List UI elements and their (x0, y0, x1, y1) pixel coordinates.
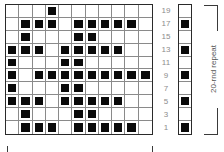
filled-cell (33, 44, 46, 57)
empty-cell (19, 69, 32, 82)
filled-cell (112, 95, 125, 108)
empty-cell (139, 5, 152, 18)
empty-cell (33, 57, 46, 70)
empty-cell (125, 57, 138, 70)
filled-cell (179, 44, 191, 57)
filled-cell (19, 108, 32, 121)
filled-cell (59, 95, 72, 108)
empty-cell (72, 5, 85, 18)
row-number-labels: 191715131197531 (157, 4, 175, 135)
row-label: 1 (157, 122, 175, 135)
stitch-repeat-bracket-left (7, 146, 8, 152)
row-label: 17 (157, 17, 175, 30)
empty-cell (179, 5, 191, 18)
filled-cell (99, 44, 112, 57)
filled-cell (86, 44, 99, 57)
empty-cell (6, 18, 19, 31)
filled-cell (179, 69, 191, 82)
empty-cell (179, 31, 191, 44)
row-label: 15 (157, 30, 175, 43)
filled-cell (46, 18, 59, 31)
filled-cell (59, 82, 72, 95)
filled-cell (72, 18, 85, 31)
repeat-bracket-lower (217, 108, 218, 134)
empty-cell (112, 82, 125, 95)
empty-cell (99, 5, 112, 18)
filled-cell (72, 57, 85, 70)
filled-cell (33, 18, 46, 31)
filled-cell (86, 69, 99, 82)
empty-cell (59, 121, 72, 134)
empty-cell (139, 31, 152, 44)
filled-cell (86, 18, 99, 31)
empty-cell (179, 57, 191, 70)
empty-cell (46, 57, 59, 70)
empty-cell (19, 57, 32, 70)
filled-cell (6, 44, 19, 57)
empty-cell (33, 5, 46, 18)
filled-cell (112, 18, 125, 31)
filled-cell (125, 121, 138, 134)
empty-cell (33, 82, 46, 95)
empty-cell (59, 18, 72, 31)
empty-cell (125, 108, 138, 121)
empty-cell (46, 82, 59, 95)
repeat-bracket-top (204, 5, 218, 6)
empty-cell (139, 121, 152, 134)
row-label: 9 (157, 70, 175, 83)
empty-cell (112, 31, 125, 44)
empty-cell (112, 5, 125, 18)
empty-cell (179, 82, 191, 95)
filled-cell (112, 69, 125, 82)
filled-cell (86, 121, 99, 134)
filled-cell (112, 44, 125, 57)
filled-cell (46, 69, 59, 82)
empty-cell (139, 57, 152, 70)
filled-cell (19, 31, 32, 44)
filled-cell (19, 44, 32, 57)
empty-cell (99, 108, 112, 121)
filled-cell (99, 69, 112, 82)
filled-cell (6, 69, 19, 82)
filled-cell (6, 95, 19, 108)
empty-cell (139, 18, 152, 31)
empty-cell (19, 82, 32, 95)
empty-cell (46, 108, 59, 121)
filled-cell (59, 57, 72, 70)
filled-cell (72, 44, 85, 57)
filled-cell (86, 108, 99, 121)
filled-cell (112, 121, 125, 134)
row-label: 13 (157, 43, 175, 56)
filled-cell (33, 121, 46, 134)
filled-cell (72, 31, 85, 44)
empty-cell (139, 82, 152, 95)
empty-cell (139, 44, 152, 57)
empty-cell (19, 5, 32, 18)
filled-cell (139, 69, 152, 82)
filled-cell (72, 108, 85, 121)
empty-cell (139, 108, 152, 121)
empty-cell (112, 57, 125, 70)
filled-cell (19, 121, 32, 134)
row-label: 5 (157, 96, 175, 109)
filled-cell (86, 95, 99, 108)
filled-cell (46, 121, 59, 134)
filled-cell (125, 18, 138, 31)
filled-cell (179, 121, 191, 134)
empty-cell (33, 31, 46, 44)
empty-cell (6, 121, 19, 134)
empty-cell (33, 108, 46, 121)
repeat-label: 20-rnd repeat (209, 45, 218, 93)
empty-cell (125, 44, 138, 57)
empty-cell (59, 108, 72, 121)
empty-cell (46, 44, 59, 57)
row-label: 11 (157, 56, 175, 69)
row-label: 7 (157, 83, 175, 96)
empty-cell (6, 31, 19, 44)
empty-cell (59, 31, 72, 44)
filled-cell (19, 95, 32, 108)
empty-cell (125, 95, 138, 108)
empty-cell (112, 108, 125, 121)
colorwork-chart-grid (5, 4, 153, 135)
filled-cell (99, 121, 112, 134)
